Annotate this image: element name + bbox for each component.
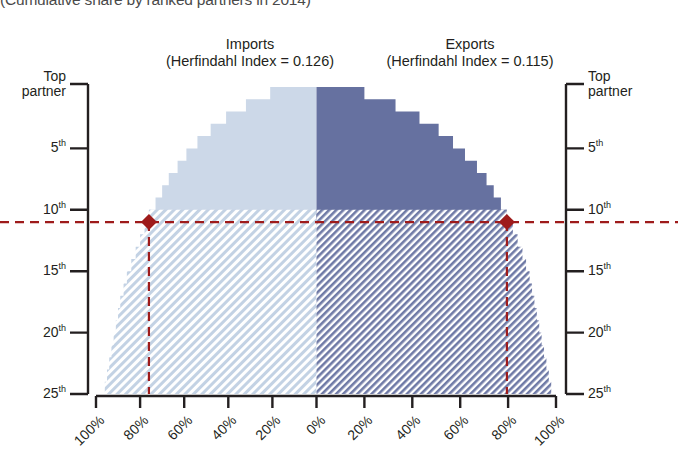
exports-area <box>317 87 552 394</box>
rank-tick-label: 20th <box>0 323 66 340</box>
axis-left <box>70 84 88 394</box>
axis-bottom <box>96 396 556 408</box>
rank-tick-label: 20th <box>588 323 668 340</box>
rank-tick-label: 10th <box>588 200 668 217</box>
rank-tick-label: 15th <box>0 261 66 278</box>
imports-area <box>105 87 317 394</box>
rank-tick-label: 25th <box>0 384 66 401</box>
rank-tick-label: 10th <box>0 200 66 217</box>
axis-right <box>566 84 584 394</box>
rank-tick-label: 15th <box>588 261 668 278</box>
right-axis-top-partner-label: Toppartner <box>588 69 678 98</box>
plot-area <box>0 0 678 458</box>
rank-tick-label: 5th <box>588 138 668 155</box>
rank-tick-label: 25th <box>588 384 668 401</box>
chart-figure: (Cumulative share by ranked partners in … <box>0 0 678 458</box>
left-axis-top-partner-label: Toppartner <box>0 69 66 98</box>
rank-tick-label: 5th <box>0 138 66 155</box>
